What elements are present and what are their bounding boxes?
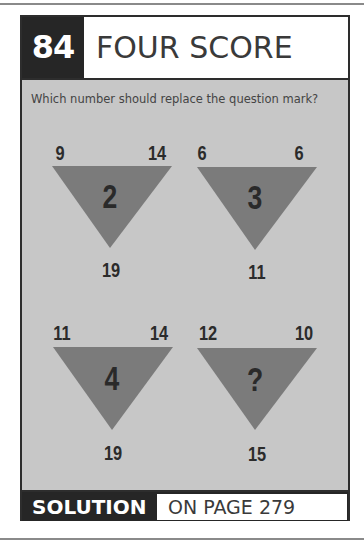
bottom-rule [0,538,364,540]
top-right-number: 14 [143,322,174,343]
triangle-shape [22,17,187,487]
top-right-number: 10 [288,322,319,343]
page-reference: ON PAGE 279 [168,494,295,520]
top-left-number: 12 [192,322,223,343]
page-reference-box: ON PAGE 279 [157,494,347,520]
triangle-shape [187,17,352,487]
top-rule [0,3,364,5]
question-mark: ? [239,362,270,396]
top-left-number: 11 [46,322,77,343]
triangle-puzzle-3: 11 14 4 19 [22,17,187,487]
bottom-number: 15 [241,443,272,464]
solution-footer: SOLUTION ON PAGE 279 [22,490,348,521]
bottom-number: 19 [97,442,128,463]
puzzle-card: 84 FOUR SCORE Which number should replac… [20,15,350,521]
triangle-puzzle-4: 12 10 ? 15 [187,17,352,487]
solution-label: SOLUTION [32,492,147,521]
center-number: 4 [96,361,127,395]
